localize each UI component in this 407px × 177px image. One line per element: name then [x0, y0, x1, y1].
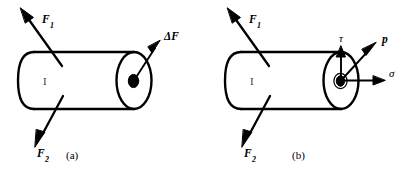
force-f2-arrow-shaft-b	[249, 96, 270, 135]
force-f2-arrow-shaft-a	[42, 96, 63, 135]
normal-stress-sigma-label-b: σ	[389, 68, 394, 79]
normal-stress-arrow-head-b	[373, 76, 385, 85]
force-f2-arrow-head-b	[242, 130, 252, 148]
shear-stress-tau-label-b: τ	[339, 33, 343, 44]
force-f1-label-a: F1	[42, 14, 54, 28]
figure-root: F1 F2 ΔF I (a) F1 F2 τ p σ I (b)	[0, 0, 407, 177]
force-f2-label-a: F2	[37, 148, 49, 162]
cylinder-b-left-cap-arc	[225, 52, 241, 109]
force-f2-arrow-head-a	[35, 130, 45, 148]
cylinder-a-left-cap-arc	[18, 52, 34, 109]
panel-caption-b: (b)	[292, 150, 305, 161]
panel-caption-a: (a)	[66, 150, 78, 161]
panel-b-drawing	[225, 8, 385, 147]
force-f1-arrow-head-a	[21, 8, 34, 23]
force-f1-arrow-head-b	[228, 8, 241, 23]
body-region-label-b: I	[250, 76, 254, 87]
figure-drawing	[0, 0, 407, 177]
force-f2-label-b: F2	[244, 148, 256, 162]
traction-arrow-head-b	[362, 43, 376, 56]
panel-a-drawing	[18, 8, 160, 147]
force-f1-label-b: F1	[249, 14, 261, 28]
delta-force-label-a: ΔF	[164, 31, 179, 43]
body-region-label-a: I	[43, 76, 47, 87]
traction-vector-p-label-b: p	[382, 34, 388, 46]
